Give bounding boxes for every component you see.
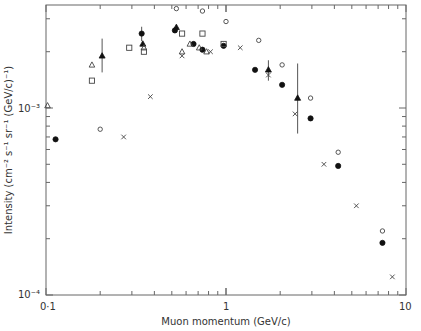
open-triangle-marker	[179, 49, 185, 54]
filled-triangle-marker	[173, 24, 179, 29]
open-circle-marker	[280, 63, 284, 67]
filled-triangle-marker	[295, 95, 301, 100]
open-square-marker	[89, 78, 94, 83]
open-circle-marker	[336, 150, 340, 154]
open-circle-marker	[98, 127, 102, 131]
filled-circle-marker	[280, 82, 285, 87]
y-tick-label-min: 10⁻⁴	[18, 289, 40, 300]
cross-marker	[354, 203, 359, 208]
axis-ticks	[46, 5, 406, 295]
x-tick-label-1: 1	[223, 301, 229, 312]
open-triangle-marker	[89, 62, 95, 67]
error-bars	[102, 27, 298, 134]
x-tick-label-2: 10	[399, 301, 412, 312]
filled-circle-marker	[139, 31, 144, 36]
cross-marker	[208, 49, 213, 54]
filled-triangle-marker	[265, 67, 271, 72]
cross-marker	[148, 94, 153, 99]
plot-frame	[46, 5, 406, 295]
open-square-marker	[200, 31, 205, 36]
cross-marker	[322, 162, 327, 167]
filled-circle-marker	[336, 163, 341, 168]
filled-circle-marker	[380, 240, 385, 245]
x-tick-label-0: 0·1	[40, 301, 56, 312]
y-tick-label-1e-3: 10⁻³	[18, 103, 40, 114]
cross-marker	[238, 45, 243, 50]
open-square-marker	[179, 31, 184, 36]
open-circle-marker	[308, 96, 312, 100]
open-circle-marker	[257, 38, 261, 42]
intensity-vs-momentum-chart: 0·1 1 10 10⁻⁴ 10⁻³ Muon momentum (GeV/c)…	[0, 0, 421, 331]
filled-circle-marker	[252, 67, 257, 72]
open-circle-marker	[200, 9, 204, 13]
filled-circle-marker	[53, 137, 58, 142]
open-circle-marker	[174, 6, 178, 10]
open-square-marker	[127, 45, 132, 50]
y-axis-title: Intensity (cm⁻² s⁻¹ sr⁻¹ (GeV/c)⁻¹)	[3, 66, 14, 234]
filled-circle-marker	[308, 116, 313, 121]
open-circle-marker	[224, 19, 228, 23]
filled-triangle-marker	[140, 41, 146, 46]
filled-triangle-marker	[99, 53, 105, 58]
filled-circle-marker	[221, 43, 226, 48]
cross-marker	[121, 135, 126, 140]
data-points	[45, 6, 395, 279]
cross-marker	[390, 275, 395, 280]
open-circle-marker	[380, 229, 384, 233]
x-axis-title: Muon momentum (GeV/c)	[161, 316, 290, 327]
cross-marker	[293, 112, 298, 117]
